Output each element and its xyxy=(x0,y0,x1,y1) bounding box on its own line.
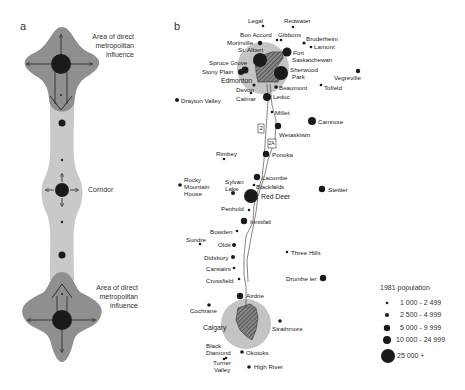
label-bruderheim: Bruderheim xyxy=(306,35,338,42)
label-leduc: Leduc xyxy=(273,93,290,100)
dot-legal xyxy=(262,25,265,28)
dot-vegreville xyxy=(356,69,360,73)
label-beaumont: Beaumont xyxy=(279,84,307,91)
dot-sherwood-park xyxy=(274,66,288,80)
dot-camrose xyxy=(308,117,316,125)
dot-wetaskiwin xyxy=(275,123,281,129)
label-bowden: Bowden xyxy=(210,228,232,235)
label-saskatchewan: Saskatchewan xyxy=(292,56,332,63)
dot-leduc xyxy=(263,93,271,101)
label-lacombe: Lacombe xyxy=(262,174,287,181)
dot-didsbury xyxy=(231,255,235,259)
legend-title: 1981 population xyxy=(380,284,430,291)
label-vegreville: Vegreville xyxy=(334,74,361,81)
highway-2a-label: 2A xyxy=(269,140,275,147)
label-calgary: Calgary xyxy=(203,324,226,331)
dot-innisfail xyxy=(241,218,247,224)
dot-three-hills xyxy=(286,251,289,254)
label-red-deer: Red Deer xyxy=(261,193,290,200)
dot-stettler xyxy=(319,186,325,192)
dot-okotoks xyxy=(240,350,244,354)
label-calmar: Calmar xyxy=(236,95,256,102)
dot-airdrie xyxy=(237,293,243,299)
dot-red-deer xyxy=(244,189,258,203)
dot-redwater xyxy=(292,26,295,29)
label-tofield: Tofield xyxy=(324,84,342,91)
label-edmonton: Edmonton xyxy=(221,77,252,84)
dot-beaumont xyxy=(274,85,278,89)
legend-item: 1 000 - 2 499 xyxy=(400,299,441,306)
legend-symbols xyxy=(381,302,395,363)
label-penhold: Penhold xyxy=(221,205,244,212)
label-camrose: Camrose xyxy=(318,118,343,125)
label-fort: Fort xyxy=(293,49,304,56)
highway-2-label: 2 xyxy=(260,125,263,132)
label-diamond: Diamond xyxy=(206,349,231,356)
dot-stony-plain xyxy=(238,69,244,75)
dot-strathmore xyxy=(278,319,282,323)
label-spruce-grove: Spruce Grove xyxy=(209,59,247,66)
label-house: House xyxy=(184,190,202,197)
legend-item: 5 000 - 9 999 xyxy=(400,324,441,331)
label-lake: Lake xyxy=(225,185,238,192)
dot-rimbey xyxy=(223,158,226,161)
label-didsbury: Didsbury xyxy=(204,254,228,261)
label-lamont: Lamont xyxy=(314,43,335,50)
label-stettler: Stettler xyxy=(328,186,348,193)
legend-item: 10 000 - 24 999 xyxy=(396,336,445,343)
label-high-river: High River xyxy=(254,363,283,370)
dot-penhold xyxy=(248,209,251,212)
dot-olds xyxy=(232,243,236,247)
label-morinville: Morinville xyxy=(227,39,253,46)
label-black: Black xyxy=(206,342,221,349)
dot-rocky-mountain-house xyxy=(178,183,182,187)
label-valley: Valley xyxy=(214,366,230,373)
label-crossfield: Crossfield xyxy=(206,277,234,284)
label-legal: Legal xyxy=(248,17,263,24)
label-devon: Devon xyxy=(236,86,254,93)
label-three-hills: Three Hills xyxy=(291,249,321,256)
dot-lacombe xyxy=(254,174,260,180)
dot-tofield xyxy=(320,84,323,87)
label-drumheller: Drumhe ler xyxy=(286,275,317,282)
label-strathmore: Strathmore xyxy=(272,325,303,332)
dot-st-albert xyxy=(253,53,267,67)
dot-gibbons xyxy=(280,39,283,42)
label-rimbey: Rimbey xyxy=(216,150,237,157)
dot-bowden xyxy=(236,230,239,233)
label-sylvan: Sylvan xyxy=(225,178,244,185)
label-ponoka: Ponoka xyxy=(272,151,293,158)
label-cochrane: Cochrane xyxy=(190,307,217,314)
dot-morinville xyxy=(258,41,262,45)
label-park: Park xyxy=(292,73,305,80)
dot-sundre xyxy=(199,243,202,246)
label-sundre: Sundre xyxy=(186,236,206,243)
label-okotoks: Okotoks xyxy=(246,349,269,356)
dot-lamont xyxy=(310,46,313,49)
dot-drayton-valley xyxy=(175,98,179,102)
dot-crossfield xyxy=(238,278,241,281)
label-rocky: Rocky xyxy=(184,176,201,183)
label-innisfail: Innisfail xyxy=(250,218,271,225)
label-sherwood: Sherwood xyxy=(290,66,318,73)
label-drayton-valley: Drayton Valley xyxy=(181,97,221,104)
dot-ponoka xyxy=(263,151,269,157)
label-wetaskiwin: Wetaskiwin xyxy=(279,131,310,138)
legend-item: 25 000 + xyxy=(397,352,424,359)
label-st-albert: St. Albert xyxy=(238,46,263,53)
dot-carstairs xyxy=(233,267,236,270)
label-blackfalds: Blackfalds xyxy=(256,183,284,190)
label-bon-accord: Bon Accord xyxy=(240,31,272,38)
label-carstairs: Carstairs xyxy=(206,265,231,272)
dot-millet xyxy=(271,111,274,114)
dot-fort-saskatchewan xyxy=(283,48,292,57)
dot-high-river xyxy=(247,365,251,369)
dot-blackfalds xyxy=(253,184,256,187)
legend-item: 2 500 - 4 999 xyxy=(400,311,441,318)
label-turner: Turner xyxy=(213,359,231,366)
label-olds: Olds xyxy=(218,241,231,248)
dot-bon-accord xyxy=(276,39,279,42)
label-stony-plain: Stony Plain xyxy=(202,68,233,75)
label-millet: Millet xyxy=(275,109,289,116)
label-mountain: Mountain xyxy=(184,183,209,190)
